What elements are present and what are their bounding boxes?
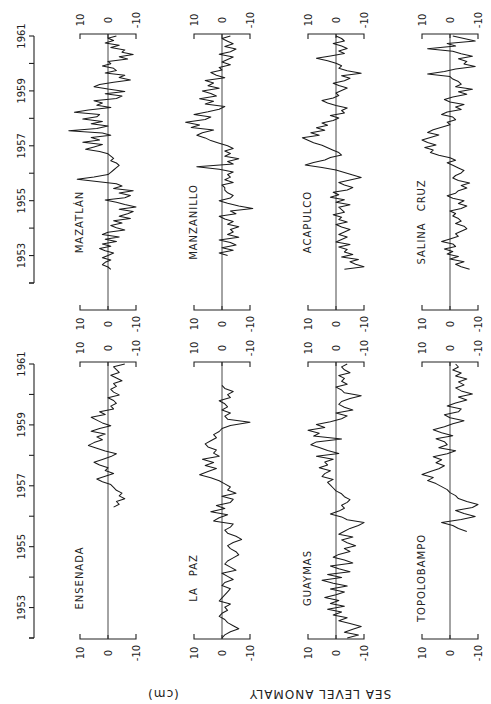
- time-axis-bottom: 19531955195719591961: [16, 351, 35, 638]
- year-tick-label: 1959: [16, 78, 27, 103]
- anomaly-tick-label: 10: [303, 318, 314, 331]
- anomaly-tick-label: -10: [473, 12, 484, 28]
- anomaly-tick-label: 0: [103, 345, 114, 351]
- panel-acapulco: 100-10100-10ACAPULCO: [302, 12, 370, 332]
- anomaly-tick-label: 0: [217, 650, 228, 656]
- station-label: ACAPULCO: [302, 191, 313, 253]
- time-axes: 1953195519571959196119531955195719591961: [16, 23, 35, 638]
- anomaly-tick-label: 10: [417, 318, 428, 331]
- station-label: SALINA CRUZ: [416, 179, 427, 264]
- anomaly-tick-label: 0: [217, 321, 228, 327]
- anomaly-tick-label: 0: [331, 17, 342, 23]
- anomaly-tick-label: 10: [189, 318, 200, 331]
- year-tick-label: 1955: [16, 534, 27, 559]
- anomaly-tick-label: -10: [245, 340, 256, 356]
- anomaly-tick-label: 10: [303, 14, 314, 27]
- anomaly-tick-label: -10: [131, 645, 142, 661]
- anomaly-tick-label: 0: [445, 17, 456, 23]
- panel-ensenada: 100-10100-10ENSENADA: [74, 340, 142, 661]
- anomaly-tick-label: -10: [245, 316, 256, 332]
- year-tick-label: 1961: [16, 23, 27, 48]
- panel-topolobampo: 100-10100-10TOPOLOBAMPO: [416, 340, 484, 661]
- anomaly-tick-label: 10: [189, 647, 200, 660]
- anomaly-tick-label: -10: [359, 340, 370, 356]
- anomaly-tick-label: -10: [473, 316, 484, 332]
- station-panels: 100-10100-10MAZATLÁN100-10100-10MANZANIL…: [69, 12, 484, 661]
- station-label: LA PAZ: [188, 554, 199, 602]
- anomaly-tick-label: 0: [445, 321, 456, 327]
- anomaly-tick-label: 10: [189, 342, 200, 355]
- anomaly-tick-label: -10: [245, 645, 256, 661]
- station-label: MANZANILLO: [188, 184, 199, 260]
- sea-level-series: [88, 364, 124, 507]
- station-label: GUAYMAS: [302, 550, 313, 606]
- sea-level-anomaly-figure: 1953195519571959196119531955195719591961…: [0, 0, 491, 704]
- year-tick-label: 1961: [16, 351, 27, 376]
- y-axis-unit: (cm): [147, 687, 179, 701]
- anomaly-tick-label: 0: [331, 650, 342, 656]
- y-axis-label: SEA LEVEL ANOMALY: [249, 687, 391, 701]
- anomaly-tick-label: -10: [359, 12, 370, 28]
- year-tick-label: 1953: [16, 243, 27, 268]
- anomaly-tick-label: -10: [359, 316, 370, 332]
- anomaly-tick-label: 10: [417, 14, 428, 27]
- sea-level-series: [200, 385, 250, 638]
- anomaly-tick-label: 10: [75, 14, 86, 27]
- anomaly-tick-label: 10: [75, 342, 86, 355]
- anomaly-tick-label: 10: [417, 342, 428, 355]
- anomaly-axis-title: SEA LEVEL ANOMALY (cm): [147, 687, 391, 701]
- anomaly-tick-label: 0: [331, 321, 342, 327]
- anomaly-tick-label: 10: [75, 318, 86, 331]
- anomaly-tick-label: -10: [131, 340, 142, 356]
- panel-mazatlán: 100-10100-10MAZATLÁN: [69, 12, 142, 332]
- anomaly-tick-label: -10: [131, 316, 142, 332]
- sea-level-series: [422, 36, 475, 269]
- anomaly-tick-label: 10: [75, 647, 86, 660]
- anomaly-tick-label: 0: [445, 650, 456, 656]
- anomaly-tick-label: -10: [245, 12, 256, 28]
- anomaly-tick-label: -10: [359, 645, 370, 661]
- station-label: ENSENADA: [74, 546, 85, 609]
- anomaly-tick-label: 10: [189, 14, 200, 27]
- year-tick-label: 1957: [16, 473, 27, 498]
- year-tick-label: 1955: [16, 188, 27, 213]
- anomaly-tick-label: 0: [103, 650, 114, 656]
- station-label: MAZATLÁN: [73, 191, 85, 254]
- year-tick-label: 1959: [16, 412, 27, 437]
- anomaly-tick-label: 0: [445, 345, 456, 351]
- year-tick-label: 1957: [16, 133, 27, 158]
- anomaly-tick-label: 0: [103, 17, 114, 23]
- panel-la-paz: 100-10100-10LA PAZ: [188, 340, 256, 661]
- panel-guaymas: 100-10100-10GUAYMAS: [302, 340, 370, 661]
- anomaly-tick-label: -10: [473, 645, 484, 661]
- panel-salina-cruz: 100-10100-10SALINA CRUZ: [416, 12, 484, 332]
- anomaly-tick-label: 0: [217, 17, 228, 23]
- station-label: TOPOLOBAMPO: [416, 534, 427, 623]
- anomaly-tick-label: 10: [303, 647, 314, 660]
- anomaly-tick-label: 0: [217, 345, 228, 351]
- anomaly-tick-label: -10: [131, 12, 142, 28]
- anomaly-tick-label: 10: [303, 342, 314, 355]
- anomaly-tick-label: 10: [417, 647, 428, 660]
- anomaly-tick-label: 0: [103, 321, 114, 327]
- year-tick-label: 1953: [16, 595, 27, 620]
- time-axis-top: 19531955195719591961: [16, 23, 35, 283]
- anomaly-tick-label: 0: [331, 345, 342, 351]
- panel-manzanillo: 100-10100-10MANZANILLO: [186, 12, 256, 332]
- anomaly-tick-label: -10: [473, 340, 484, 356]
